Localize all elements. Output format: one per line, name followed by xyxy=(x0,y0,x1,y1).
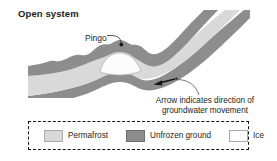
pingo-diagram-figure: Open system Pin xyxy=(0,0,277,161)
legend-item-ice: Ice xyxy=(229,130,264,142)
caption-leader-line xyxy=(178,80,199,96)
legend-inner: Permafrost Unfrozen ground Ice xyxy=(31,124,246,147)
legend-label-permafrost: Permafrost xyxy=(68,131,108,140)
legend-swatch-unfrozen-ground xyxy=(126,130,145,142)
legend-label-unfrozen-ground: Unfrozen ground xyxy=(150,131,211,140)
pingo-marker-dot xyxy=(119,43,123,47)
legend-swatch-ice xyxy=(229,130,248,142)
legend-item-unfrozen-ground: Unfrozen ground xyxy=(126,130,211,142)
legend-item-permafrost: Permafrost xyxy=(44,130,108,142)
legend-swatch-permafrost xyxy=(44,130,63,142)
pingo-label: Pingo xyxy=(85,33,107,43)
groundwater-arrow-caption: Arrow indicates direction of groundwater… xyxy=(140,96,270,115)
legend: Permafrost Unfrozen ground Ice xyxy=(28,121,249,150)
legend-label-ice: Ice xyxy=(253,131,264,140)
